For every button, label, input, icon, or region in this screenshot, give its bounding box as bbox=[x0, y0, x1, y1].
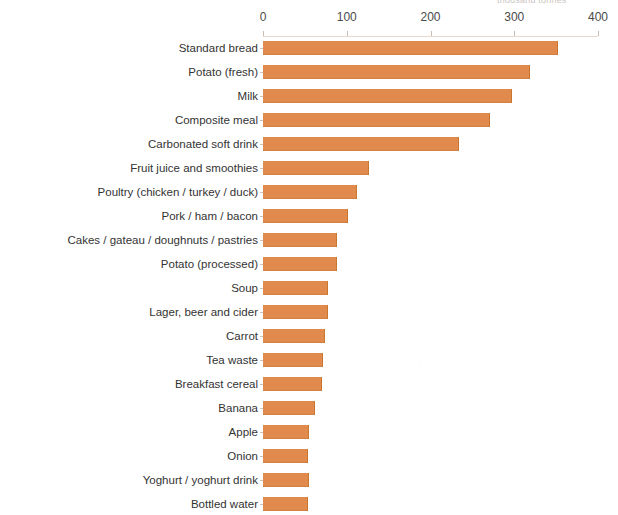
bar-row: Cakes / gateau / doughnuts / pastries bbox=[0, 230, 618, 254]
category-label: Apple bbox=[8, 425, 258, 439]
category-label: Poultry (chicken / turkey / duck) bbox=[8, 185, 258, 199]
category-label: Carbonated soft drink bbox=[8, 137, 258, 151]
bar-row: Potato (fresh) bbox=[0, 62, 618, 86]
category-label: Breakfast cereal bbox=[8, 377, 258, 391]
bar bbox=[263, 281, 328, 295]
bar-row: Breakfast cereal bbox=[0, 374, 618, 398]
category-label: Banana bbox=[8, 401, 258, 415]
category-label: Bottled water bbox=[8, 497, 258, 511]
axis-line bbox=[263, 36, 598, 37]
x-axis-tick-label: 300 bbox=[504, 10, 524, 24]
category-label: Composite meal bbox=[8, 113, 258, 127]
bar-row: Tea waste bbox=[0, 350, 618, 374]
bar-row: Fruit juice and smoothies bbox=[0, 158, 618, 182]
bar bbox=[263, 65, 530, 79]
plot-area: Standard breadPotato (fresh)MilkComposit… bbox=[0, 38, 618, 500]
bar-row: Yoghurt / yoghurt drink bbox=[0, 470, 618, 494]
bar-row: Carrot bbox=[0, 326, 618, 350]
bar bbox=[263, 137, 459, 151]
bar bbox=[263, 161, 369, 175]
category-label: Milk bbox=[8, 89, 258, 103]
bar bbox=[263, 401, 315, 415]
x-axis-tick-mark bbox=[514, 31, 515, 36]
bar bbox=[263, 353, 323, 367]
category-label: Lager, beer and cider bbox=[8, 305, 258, 319]
bar-row: Standard bread bbox=[0, 38, 618, 62]
bar bbox=[263, 257, 337, 271]
bar-row: Carbonated soft drink bbox=[0, 134, 618, 158]
bar-row: Pork / ham / bacon bbox=[0, 206, 618, 230]
bar bbox=[263, 377, 322, 391]
bar bbox=[263, 425, 309, 439]
category-label: Fruit juice and smoothies bbox=[8, 161, 258, 175]
bar-row: Apple bbox=[0, 422, 618, 446]
category-label: Potato (fresh) bbox=[8, 65, 258, 79]
category-label: Tea waste bbox=[8, 353, 258, 367]
bar bbox=[263, 185, 357, 199]
bar-row: Onion bbox=[0, 446, 618, 470]
bar-row: Poultry (chicken / turkey / duck) bbox=[0, 182, 618, 206]
category-label: Pork / ham / bacon bbox=[8, 209, 258, 223]
x-axis-tick-mark bbox=[431, 31, 432, 36]
bar bbox=[263, 113, 490, 127]
x-axis-tick-mark bbox=[598, 31, 599, 36]
x-axis-tick-mark bbox=[347, 31, 348, 36]
category-label: Potato (processed) bbox=[8, 257, 258, 271]
x-axis-tick-label: 100 bbox=[337, 10, 357, 24]
category-label: Cakes / gateau / doughnuts / pastries bbox=[8, 233, 258, 247]
category-label: Standard bread bbox=[8, 41, 258, 55]
bar bbox=[263, 473, 309, 487]
bar bbox=[263, 329, 325, 343]
category-label: Carrot bbox=[8, 329, 258, 343]
bar bbox=[263, 41, 558, 55]
bar-row: Lager, beer and cider bbox=[0, 302, 618, 326]
x-axis-tick-mark bbox=[263, 31, 264, 36]
x-axis: 0100200300400 bbox=[0, 0, 618, 38]
bar bbox=[263, 449, 308, 463]
bar-row: Milk bbox=[0, 86, 618, 110]
x-axis-tick-label: 400 bbox=[588, 10, 608, 24]
category-label: Yoghurt / yoghurt drink bbox=[8, 473, 258, 487]
bar-row: Banana bbox=[0, 398, 618, 422]
bar bbox=[263, 497, 308, 511]
bar bbox=[263, 305, 328, 319]
bar-row: Soup bbox=[0, 278, 618, 302]
bar-row: Composite meal bbox=[0, 110, 618, 134]
bar bbox=[263, 89, 512, 103]
bar-row: Bottled water bbox=[0, 494, 618, 515]
x-axis-tick-label: 200 bbox=[420, 10, 440, 24]
bar bbox=[263, 233, 337, 247]
bar bbox=[263, 209, 348, 223]
category-label: Soup bbox=[8, 281, 258, 295]
x-axis-tick-label: 0 bbox=[260, 10, 267, 24]
bar-row: Potato (processed) bbox=[0, 254, 618, 278]
category-label: Onion bbox=[8, 449, 258, 463]
